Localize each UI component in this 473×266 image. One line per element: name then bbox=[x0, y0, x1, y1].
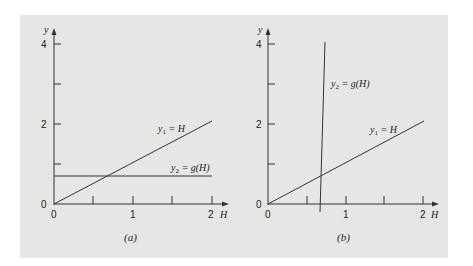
chart-a-x-axis-arrow-icon bbox=[222, 202, 229, 207]
chart-a-ytick-label: 0 bbox=[41, 199, 47, 210]
chart-a-xtick-label: 2 bbox=[208, 209, 214, 220]
chart-b-caption: (b) bbox=[337, 231, 350, 244]
chart-b-ytick-label: 0 bbox=[256, 199, 262, 210]
chart-b-xlabel: H bbox=[430, 209, 439, 220]
chart-a-label-y1: y1 = H bbox=[157, 123, 186, 136]
chart-a-ytick-label: 2 bbox=[41, 119, 47, 130]
chart-a-labels: y 4 2 0 0 1 2 H y1 = H y2 = g(H) (a) bbox=[41, 24, 228, 244]
chart-b-ytick-label: 2 bbox=[256, 119, 262, 130]
chart-a bbox=[52, 28, 230, 207]
chart-b-series-y2 bbox=[320, 42, 325, 212]
chart-b-xtick-label: 1 bbox=[343, 209, 349, 220]
figure-svg: y 4 2 0 0 1 2 H y1 = H y2 = g(H) (a) y 4… bbox=[0, 0, 473, 266]
chart-b-ylabel: y bbox=[257, 24, 263, 35]
chart-a-xtick-label: 1 bbox=[130, 209, 136, 220]
chart-a-label-y2: y2 = g(H) bbox=[170, 162, 210, 175]
chart-a-xtick-label: 0 bbox=[51, 209, 57, 220]
chart-b-xtick-label: 0 bbox=[265, 209, 271, 220]
chart-b-label-y1: y1 = H bbox=[369, 124, 398, 137]
chart-b-xtick-label: 2 bbox=[420, 209, 426, 220]
chart-b bbox=[266, 28, 440, 212]
chart-b-ytick-label: 4 bbox=[256, 39, 262, 50]
chart-a-ytick-label: 4 bbox=[41, 39, 47, 50]
chart-b-labels: y 4 2 0 0 1 2 H y2 = g(H) y1 = H (b) bbox=[256, 24, 439, 244]
chart-a-xlabel: H bbox=[219, 209, 228, 220]
chart-a-ylabel: y bbox=[43, 24, 49, 35]
chart-b-label-y2: y2 = g(H) bbox=[330, 78, 370, 91]
chart-b-x-axis-arrow-icon bbox=[432, 202, 439, 207]
chart-a-caption: (a) bbox=[124, 231, 137, 244]
chart-b-series-y1 bbox=[268, 121, 424, 204]
chart-b-y-axis-arrow-icon bbox=[266, 28, 271, 35]
chart-a-y-axis-arrow-icon bbox=[52, 28, 57, 35]
